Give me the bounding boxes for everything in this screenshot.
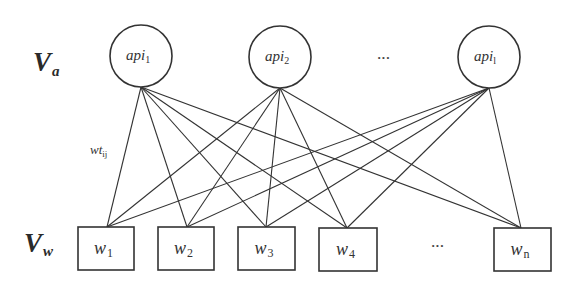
word-set-label: Vw [24,228,54,259]
word-node-w1: w1 [78,227,134,270]
word-node-w3: w3 [238,227,295,270]
word-node-wn: wn [494,228,551,271]
word-nodes-layer: w1w2w3w4wn [78,227,551,271]
edge-apil-wn [489,88,521,228]
api-set-label: Va [33,47,60,79]
api-node-label: apil [474,48,496,66]
edge-api2-w3 [266,88,280,227]
edge-apil-w2 [187,88,489,227]
word-ellipsis: ··· [431,238,444,253]
api-node-api2: api2 [249,26,311,88]
edge-api1-w1 [107,87,141,227]
api-ellipsis: ··· [377,50,390,65]
bipartite-graph-diagram: Va Vw wtij api1api2apil ··· w1w2w3w4wn ·… [0,0,577,289]
api-nodes-layer: api1api2apil [110,25,520,88]
edge-api1-w4 [141,87,347,228]
api-node-apil: apil [458,26,520,88]
word-node-w2: w2 [158,227,214,270]
edge-api1-wn [141,87,521,228]
edge-weight-label: wtij [90,142,107,159]
word-node-w4: w4 [319,228,377,271]
edges-layer [107,87,521,228]
edge-api2-w1 [107,88,280,227]
edge-apil-w4 [347,88,489,228]
api-node-api1: api1 [110,25,172,87]
edge-api1-w3 [141,87,266,227]
